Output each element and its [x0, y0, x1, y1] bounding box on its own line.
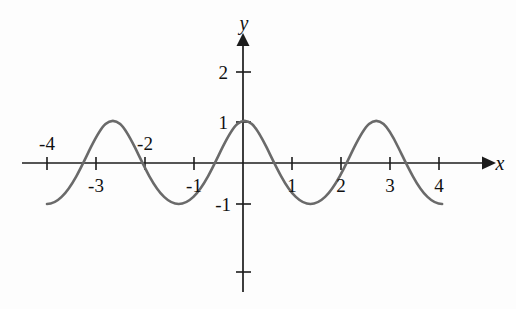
- y-axis-label: y: [238, 12, 249, 35]
- y-tick-label-2: 2: [219, 62, 229, 83]
- x-tick-label--2: -2: [137, 133, 153, 154]
- y-tick-label-1: 1: [219, 112, 229, 133]
- y-tick-label--1: -1: [215, 194, 231, 215]
- x-tick-label-1: 1: [287, 175, 297, 196]
- plot-canvas: -4 -2 -3 -1 1 2 3 4 2 1 -1 x y: [0, 0, 516, 309]
- x-tick-label-3: 3: [385, 175, 395, 196]
- x-axis-label: x: [495, 152, 505, 174]
- x-tick-label-4: 4: [434, 175, 444, 196]
- x-tick-label--3: -3: [88, 175, 104, 196]
- x-tick-label-2: 2: [336, 175, 346, 196]
- graph-figure: -4 -2 -3 -1 1 2 3 4 2 1 -1 x y: [0, 0, 516, 309]
- x-tick-label--4: -4: [39, 133, 55, 154]
- y-axis-arrowhead: [237, 33, 250, 46]
- x-axis-arrowhead: [482, 157, 496, 170]
- x-tick-label--1: -1: [186, 175, 202, 196]
